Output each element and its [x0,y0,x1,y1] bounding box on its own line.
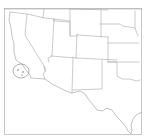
map-frame [5,9,142,135]
border-az-nm [72,57,73,93]
border-or-id [43,9,44,18]
border-co-nm [76,58,117,60]
map-container [0,0,147,140]
border-ut-co [76,34,77,58]
border-nv-ut [48,19,54,62]
border-sd-ne [101,24,138,36]
border-ca-or-nv-id [10,12,70,21]
border-wy-co [77,35,108,37]
border-ut-north [54,19,77,36]
border-nm-tx [73,60,102,90]
island-dot [17,69,18,70]
us-southwest-map [0,0,147,140]
gulf-coast [131,112,142,134]
border-ok-tx [108,62,140,81]
border-ut-az [51,56,76,58]
border-ca-nv [25,14,45,72]
island-dot [21,74,22,75]
border-us-mexico [31,78,131,134]
island-dot [22,71,23,72]
pacific-coast [9,12,31,78]
